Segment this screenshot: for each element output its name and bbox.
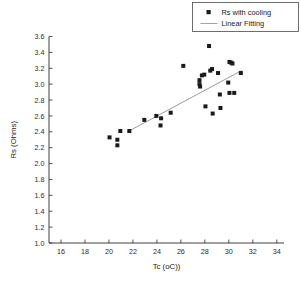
y-tick-label: 2.4 bbox=[35, 127, 45, 136]
chart-legend: Rs with coolingLinear Fitting bbox=[193, 3, 299, 32]
data-point bbox=[159, 116, 163, 120]
data-point bbox=[202, 73, 206, 77]
data-point bbox=[127, 129, 131, 133]
x-tick-label: 24 bbox=[153, 247, 161, 256]
data-series bbox=[108, 44, 243, 147]
y-tick-label: 2.8 bbox=[35, 96, 45, 105]
legend-label-series: Rs with cooling bbox=[222, 8, 272, 17]
data-point bbox=[198, 85, 202, 89]
y-tick-label: 2.2 bbox=[35, 143, 45, 152]
data-point bbox=[197, 78, 201, 82]
data-point bbox=[218, 92, 222, 96]
data-point bbox=[181, 64, 185, 68]
data-point bbox=[226, 81, 230, 85]
data-point bbox=[118, 129, 122, 133]
data-point bbox=[210, 67, 214, 71]
y-tick-label: 1.4 bbox=[35, 207, 45, 216]
legend-square-marker bbox=[207, 10, 211, 14]
data-point bbox=[108, 135, 112, 139]
x-axis-title: Tc (oC)) bbox=[153, 262, 181, 271]
x-tick-label: 26 bbox=[177, 247, 185, 256]
x-tick-label: 34 bbox=[273, 247, 281, 256]
linear-fit-line bbox=[128, 71, 242, 132]
data-point bbox=[154, 114, 158, 118]
data-point bbox=[159, 123, 163, 127]
y-tick-label: 2.6 bbox=[35, 112, 45, 121]
y-tick-label: 1.2 bbox=[35, 223, 45, 232]
data-point bbox=[230, 62, 234, 66]
y-tick-label: 3.2 bbox=[35, 64, 45, 73]
scatter-plot: 161820222426283032341.01.21.41.61.82.02.… bbox=[0, 0, 301, 283]
x-tick-label: 32 bbox=[249, 247, 257, 256]
x-tick-label: 16 bbox=[57, 247, 65, 256]
y-tick-label: 3.4 bbox=[35, 48, 45, 57]
data-point bbox=[232, 91, 236, 95]
legend-label-fit: Linear Fitting bbox=[222, 19, 265, 28]
y-tick-label: 1.8 bbox=[35, 175, 45, 184]
data-point bbox=[203, 104, 207, 108]
y-tick-label: 1.6 bbox=[35, 191, 45, 200]
data-point bbox=[239, 71, 243, 75]
x-tick-label: 30 bbox=[225, 247, 233, 256]
chart-container: 161820222426283032341.01.21.41.61.82.02.… bbox=[0, 0, 301, 283]
y-tick-label: 3.6 bbox=[35, 32, 45, 41]
y-tick-label: 2.0 bbox=[35, 159, 45, 168]
x-tick-label: 18 bbox=[81, 247, 89, 256]
x-tick-label: 22 bbox=[129, 247, 137, 256]
x-tick-label: 20 bbox=[105, 247, 113, 256]
y-tick-label: 3.0 bbox=[35, 80, 45, 89]
data-point bbox=[115, 138, 119, 142]
data-point bbox=[211, 112, 215, 116]
y-axis-title: Rs (Ohms) bbox=[9, 121, 18, 159]
data-point bbox=[142, 118, 146, 122]
data-point bbox=[115, 143, 119, 147]
y-tick-label: 1.0 bbox=[35, 239, 45, 248]
x-tick-label: 28 bbox=[201, 247, 209, 256]
data-point bbox=[218, 106, 222, 110]
data-point bbox=[207, 44, 211, 48]
data-point bbox=[227, 91, 231, 95]
data-point bbox=[169, 111, 173, 115]
data-point bbox=[216, 71, 220, 75]
axes: 161820222426283032341.01.21.41.61.82.02.… bbox=[9, 32, 284, 271]
